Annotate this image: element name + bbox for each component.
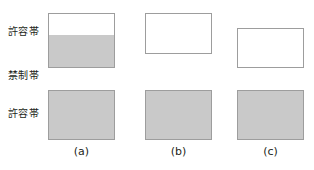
caption-a: (a) [48,146,115,158]
upper-band-box-a [48,13,115,68]
band-fill-lower-b [146,91,211,139]
caption-c: (c) [237,146,304,158]
band-fill-lower-c [238,91,303,139]
forbidden-band-label: 禁制帯 [8,70,39,81]
upper-band-box-c [237,28,304,68]
lower-band-box-a [48,90,115,140]
allowed-band-lower-label: 許容帯 [8,108,39,119]
caption-b: (b) [145,146,212,158]
lower-band-box-c [237,90,304,140]
allowed-band-upper-label: 許容帯 [8,26,39,37]
lower-band-box-b [145,90,212,140]
band-fill-lower-a [49,91,114,139]
band-fill-upper-a [49,35,114,67]
upper-band-box-b [145,13,212,54]
band-diagram-figure: 許容帯 禁制帯 許容帯 (a) (b) (c) [0,0,314,170]
